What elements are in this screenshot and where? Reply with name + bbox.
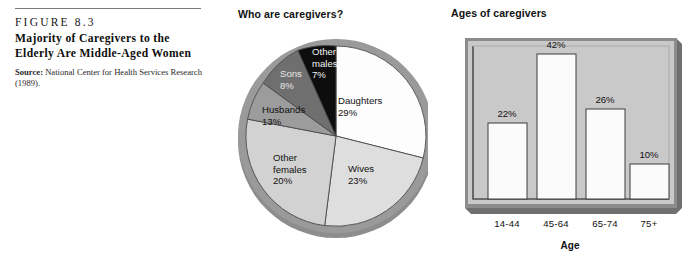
bar-value-65-74: 26% — [582, 94, 628, 105]
pie-label-wives-pct: 23% — [348, 175, 367, 186]
figure-title: Majority of Caregivers to the Elderly Ar… — [15, 31, 211, 61]
figure-source: Source: National Center for Health Servi… — [15, 67, 211, 89]
figure-number: FIGURE 8.3 — [15, 16, 211, 28]
bar-value-75-plus: 10% — [626, 149, 672, 160]
pie-label-daughters-pct: 29% — [338, 107, 357, 118]
pie-label-husbands: Husbands 13% — [262, 104, 305, 127]
bar-75-plus — [630, 164, 669, 199]
bar-axis-title-age: Age — [510, 240, 630, 251]
source-label: Source: — [15, 67, 43, 77]
pie-label-other-females-name1: Other — [273, 152, 297, 163]
pie-label-other-males: Other males 7% — [312, 46, 338, 81]
caption-rule — [15, 8, 201, 9]
figure-root: FIGURE 8.3 Majority of Caregivers to the… — [0, 0, 693, 265]
bar-value-45-64: 42% — [533, 39, 579, 50]
pie-label-other-females-name2: females — [273, 164, 307, 175]
pie-label-sons-pct: 8% — [280, 80, 294, 91]
bar-14-44 — [488, 123, 527, 199]
bar-65-74 — [586, 109, 625, 199]
figure-caption: FIGURE 8.3 Majority of Caregivers to the… — [15, 8, 211, 89]
pie-chart-heading: Who are caregivers? — [238, 8, 343, 22]
pie-label-sons-name: Sons — [280, 68, 302, 79]
pie-label-daughters-name: Daughters — [338, 95, 382, 106]
pie-label-wives: Wives 23% — [348, 163, 374, 186]
pie-label-other-females: Other females 20% — [273, 152, 307, 187]
pie-label-other-males-name2: males — [312, 58, 338, 69]
bar-category-75-plus: 75+ — [621, 218, 677, 229]
pie-label-sons: Sons 8% — [280, 68, 302, 91]
bar-chart: Ages of caregivers 22% 42% 26% 10% 14-44… — [430, 0, 693, 265]
pie-label-daughters: Daughters 29% — [338, 95, 382, 118]
bar-category-14-44: 14-44 — [479, 218, 535, 229]
pie-label-husbands-name: Husbands — [262, 104, 305, 115]
pie-label-husbands-pct: 13% — [262, 116, 281, 127]
pie-label-other-males-name1: Other — [312, 46, 336, 57]
pie-chart-graphic — [228, 0, 428, 265]
pie-label-other-males-pct: 7% — [312, 69, 326, 80]
pie-label-other-females-pct: 20% — [273, 175, 292, 186]
pie-label-wives-name: Wives — [348, 163, 374, 174]
pie-chart: Who are caregivers? — [228, 0, 428, 265]
source-text: National Center for Health Services Rese… — [15, 67, 202, 88]
bar-value-14-44: 22% — [484, 108, 530, 119]
bar-45-64 — [537, 54, 576, 199]
bar-category-45-64: 45-64 — [528, 218, 584, 229]
